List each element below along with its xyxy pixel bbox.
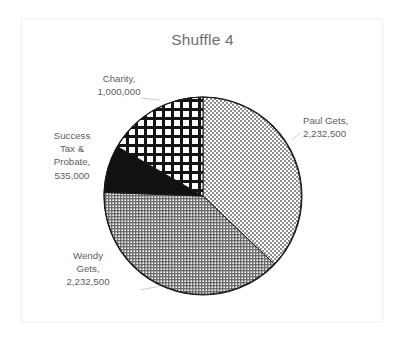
slice-label-charity: Charity, 1,000,000 — [64, 72, 174, 98]
pie-chart-container: Shuffle 4 — [0, 0, 405, 343]
slice-label-success-tax: Success Tax & Probate, 535,000 — [24, 129, 120, 182]
slice-label-paul: Paul Gets, 2,232,500 — [303, 114, 399, 140]
slice-label-wendy: Wendy Gets, 2,232,500 — [35, 249, 141, 289]
leader-line-paul — [292, 133, 300, 140]
